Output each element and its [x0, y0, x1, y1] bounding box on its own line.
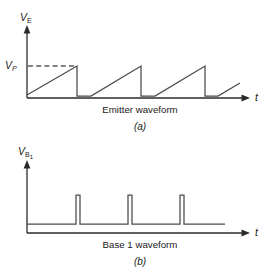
panel-a-sawtooth-waveform [27, 66, 240, 96]
panel-a-x-axis-label: t [255, 92, 258, 103]
panel-b-x-axis-label: t [255, 227, 258, 238]
panel-a-caption: Emitter waveform [0, 105, 280, 115]
panel-a-x-axis-arrowhead [242, 95, 251, 102]
panel-a-y-axis-label: VE [20, 12, 32, 23]
panel-b-y-axis-arrowhead [24, 160, 31, 169]
panel-b-x-axis-arrowhead [242, 230, 251, 237]
panel-b-pulse-waveform [27, 195, 225, 224]
panel-a-group [24, 25, 250, 101]
panel-a-threshold-label: VP [5, 60, 17, 71]
panel-b-letter: (b) [0, 257, 280, 267]
panel-b-caption: Base 1 waveform [0, 240, 280, 250]
panel-a-y-axis-arrowhead [24, 25, 31, 34]
panel-b-group [24, 160, 250, 236]
unijunction-waveform-figure: VE VP t Emitter waveform (a) VB1 t Base … [0, 0, 280, 278]
panel-a-letter: (a) [0, 122, 280, 132]
waveform-svg [0, 0, 280, 278]
panel-b-y-axis-label: VB1 [18, 146, 33, 157]
